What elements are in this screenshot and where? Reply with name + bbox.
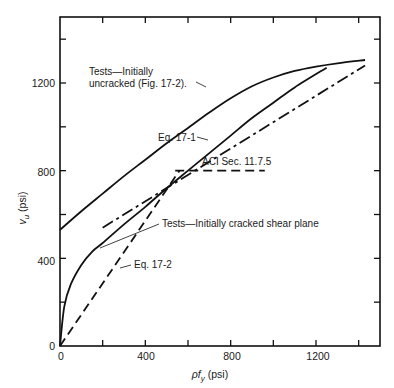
- x-axis-title: ρfy (psi): [191, 368, 228, 383]
- annotation-uncracked-line2: uncracked (Fig. 17-2).: [89, 78, 187, 89]
- annotation-cracked: Tests—Initially cracked shear plane: [162, 218, 319, 229]
- leader-eq-17-1: [197, 137, 208, 140]
- y-tick-label-400: 400: [37, 255, 55, 267]
- x-tick-labels: 0 400 800 1200: [58, 350, 330, 362]
- annotation-uncracked-line1: Tests—Initially: [89, 66, 153, 77]
- leader-uncracked: [196, 82, 206, 87]
- annotations: Tests—Initially uncracked (Fig. 17-2). E…: [89, 66, 319, 270]
- leader-eq-17-2: [120, 265, 131, 268]
- y-tick-label-800: 800: [37, 166, 55, 178]
- annotation-aci: ACI Sec. 11.7.5: [202, 156, 272, 167]
- y-tick-label-1200: 1200: [32, 77, 56, 89]
- series-eq-17-1: [103, 65, 365, 227]
- x-tick-label-400: 400: [137, 350, 155, 362]
- y-tick-label-0: 0: [49, 340, 55, 352]
- x-tick-label-0: 0: [58, 350, 64, 362]
- series-tests-initially-cracked-shear-plane: [60, 68, 327, 346]
- x-tick-label-1200: 1200: [306, 350, 330, 362]
- series-group: [60, 60, 365, 346]
- x-tick-label-800: 800: [223, 350, 241, 362]
- shear-friction-chart: 0 400 800 1200 0 400 800 1200 ρfy (psi) …: [0, 0, 394, 388]
- leader-cracked: [100, 224, 159, 248]
- y-tick-labels: 0 400 800 1200: [32, 77, 56, 352]
- annotation-eq-17-1: Eq. 17-1: [158, 132, 196, 143]
- y-axis-title: vu (psi): [16, 191, 31, 224]
- annotation-eq-17-2: Eq. 17-2: [134, 259, 172, 270]
